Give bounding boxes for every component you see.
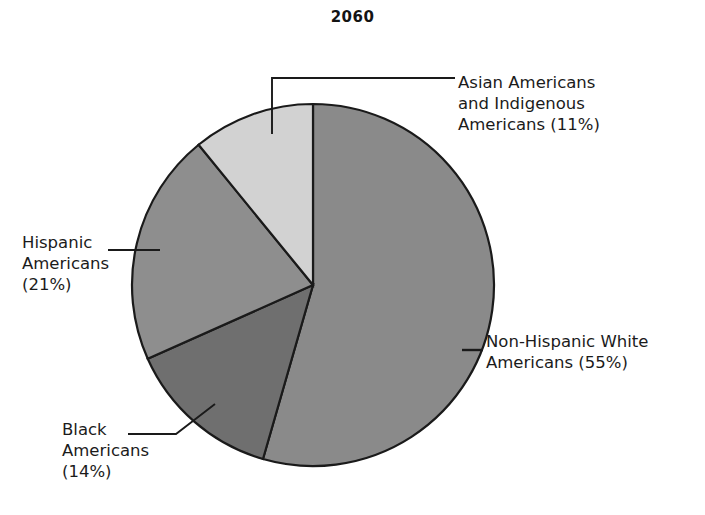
slice-label-asian-indigenous-americans: Asian Americans and Indigenous Americans… [458, 72, 600, 135]
pie-chart-figure: 2060 Asian Americans and Indigenous Amer… [0, 0, 705, 515]
slice-label-hispanic-americans: Hispanic Americans (21%) [22, 232, 109, 295]
slice-label-non-hispanic-white-americans: Non-Hispanic White Americans (55%) [486, 331, 648, 373]
slice-label-black-americans: Black Americans (14%) [62, 419, 149, 482]
